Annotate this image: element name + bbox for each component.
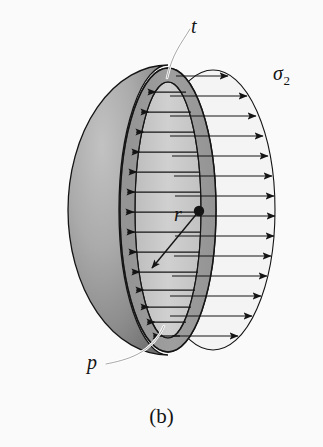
stress-label: σ2 [273, 63, 290, 87]
radius-label: r [174, 204, 182, 224]
figure-container: t p r σ2 (b) [0, 0, 323, 447]
stress-symbol: σ [273, 62, 283, 84]
thickness-label: t [191, 16, 197, 36]
center-point-dot [194, 206, 204, 216]
figure-caption: (b) [0, 404, 323, 429]
pressure-label: p [87, 352, 97, 372]
stress-subscript: 2 [283, 73, 290, 88]
